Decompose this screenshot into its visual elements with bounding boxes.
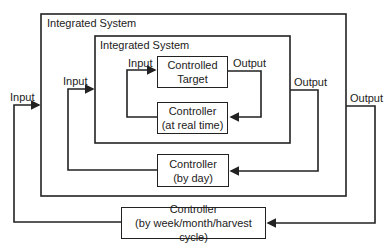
controller-day-line1: Controller xyxy=(169,157,217,171)
inner-system-label: Integrated System xyxy=(100,39,189,52)
input-mid-label: Input xyxy=(63,75,87,88)
controller-realtime-line1: Controller xyxy=(169,104,217,118)
outer-system-label: Integrated System xyxy=(47,17,136,30)
controller-week-line1: Controller xyxy=(170,202,218,216)
controlled-target-line2: Target xyxy=(177,72,208,86)
controller-realtime-line2: (at real time) xyxy=(162,118,224,132)
controller-day-line2: (by day) xyxy=(173,171,213,185)
input-inner-label: Input xyxy=(128,57,152,70)
output-outer-label: Output xyxy=(350,92,383,105)
controller-week-box: Controller (by week/month/harvest cycle) xyxy=(121,207,266,239)
controller-day-box: Controller (by day) xyxy=(157,154,229,187)
output-inner-label: Output xyxy=(233,57,266,70)
output-mid-label: Output xyxy=(294,76,327,89)
controlled-target-box: Controlled Target xyxy=(157,56,228,88)
controlled-target-line1: Controlled xyxy=(167,58,217,72)
controller-realtime-box: Controller (at real time) xyxy=(157,102,228,134)
controller-week-line2: (by week/month/harvest cycle) xyxy=(122,216,265,244)
input-outer-label: Input xyxy=(10,91,34,104)
